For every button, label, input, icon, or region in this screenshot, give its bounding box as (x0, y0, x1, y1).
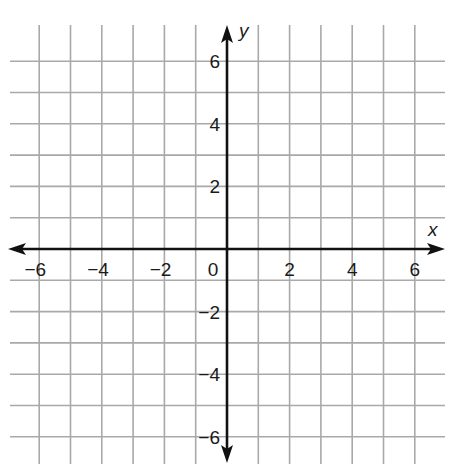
x-tick-label: −4 (87, 259, 109, 280)
y-tick-label: 4 (209, 114, 220, 135)
x-tick-labels: −6−4−20246 (25, 259, 421, 280)
x-tick-label: 4 (347, 259, 358, 280)
x-tick-label: 2 (284, 259, 295, 280)
x-tick-label: 6 (410, 259, 421, 280)
y-tick-label: −6 (198, 427, 220, 448)
coordinate-plane: x y −6−4−20246 642−2−4−6 (0, 0, 450, 464)
x-tick-label: −6 (25, 259, 47, 280)
y-tick-label: 6 (209, 51, 220, 72)
y-axis-label: y (237, 20, 250, 41)
y-tick-label: −4 (198, 364, 220, 385)
y-tick-label: 2 (209, 176, 220, 197)
x-tick-label: 0 (208, 259, 219, 280)
x-axis-label: x (427, 219, 439, 240)
axes (8, 25, 445, 463)
x-tick-label: −2 (150, 259, 172, 280)
y-tick-label: −2 (198, 302, 220, 323)
